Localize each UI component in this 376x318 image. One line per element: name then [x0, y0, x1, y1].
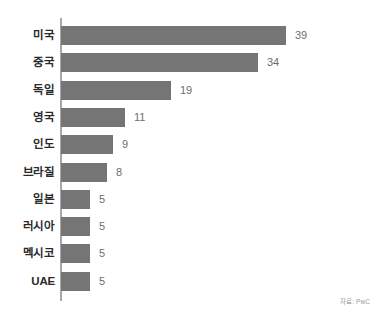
bar-row: 브라질8 [0, 163, 376, 182]
bar [61, 53, 258, 72]
bar [61, 163, 107, 182]
category-label: 독일 [33, 81, 55, 100]
category-label: 러시아 [23, 217, 55, 236]
category-label: UAE [31, 272, 55, 291]
bar-value-label: 34 [267, 53, 279, 72]
bar-row: 일본5 [0, 190, 376, 209]
bar [61, 190, 90, 209]
bar-value-label: 5 [99, 217, 105, 236]
category-label: 중국 [33, 53, 55, 72]
bar-value-label: 5 [99, 190, 105, 209]
bar [61, 217, 90, 236]
bar-value-label: 5 [99, 244, 105, 263]
bar-chart: 미국39중국34독일19영국11인도9브라질8일본5러시아5멕시코5UAE5 자… [0, 0, 376, 318]
category-label: 멕시코 [23, 244, 55, 263]
bar-value-label: 5 [99, 272, 105, 291]
bar-row: 미국39 [0, 26, 376, 45]
bar [61, 244, 90, 263]
bar [61, 272, 90, 291]
bar [61, 108, 125, 127]
category-label: 일본 [33, 190, 55, 209]
bar-row: 러시아5 [0, 217, 376, 236]
category-label: 미국 [33, 26, 55, 45]
bar-row: 멕시코5 [0, 244, 376, 263]
bar-value-label: 39 [295, 26, 307, 45]
category-label: 브라질 [23, 163, 55, 182]
bar-value-label: 19 [180, 81, 192, 100]
bar-row: 인도9 [0, 135, 376, 154]
category-label: 영국 [33, 108, 55, 127]
bar-row: 독일19 [0, 81, 376, 100]
category-label: 인도 [33, 135, 55, 154]
bar [61, 81, 171, 100]
bar-row: UAE5 [0, 272, 376, 291]
bar-value-label: 8 [116, 163, 122, 182]
bar [61, 135, 113, 154]
bar [61, 26, 286, 45]
plot-area: 미국39중국34독일19영국11인도9브라질8일본5러시아5멕시코5UAE5 [0, 26, 376, 301]
bar-row: 중국34 [0, 53, 376, 72]
source-attribution: 자료: PwC [340, 296, 370, 306]
bar-value-label: 11 [134, 108, 145, 127]
bar-row: 영국11 [0, 108, 376, 127]
bar-value-label: 9 [122, 135, 128, 154]
